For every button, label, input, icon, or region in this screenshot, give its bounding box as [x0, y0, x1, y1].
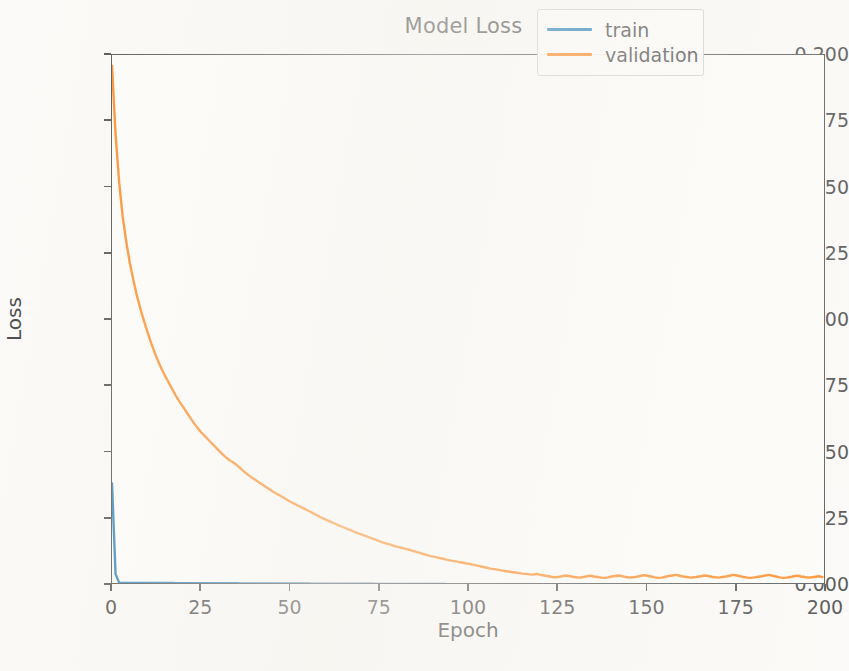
x-tick-label: 50: [250, 596, 330, 618]
x-tick-label: 25: [160, 596, 240, 618]
x-tick-mark: [110, 584, 112, 591]
page-title: Model Loss: [0, 14, 849, 38]
series-line-train: [112, 484, 805, 585]
x-tick-mark: [467, 584, 469, 591]
x-tick-mark: [378, 584, 380, 591]
x-tick-label: 150: [607, 596, 687, 618]
x-tick-mark: [289, 584, 291, 591]
x-axis-label: Epoch: [111, 618, 825, 642]
y-tick-mark: [104, 252, 111, 254]
y-tick-mark: [104, 318, 111, 320]
model-loss-figure: Model Loss Loss Epoch 0.0000.0250.0500.0…: [0, 0, 849, 671]
legend-swatch-train: [547, 28, 592, 31]
x-tick-label: 125: [517, 596, 597, 618]
legend-label-validation: validation: [605, 44, 699, 66]
x-tick-mark: [735, 584, 737, 591]
legend-item-validation[interactable]: validation: [547, 42, 694, 67]
legend-item-train[interactable]: train: [547, 17, 694, 42]
x-tick-mark: [556, 584, 558, 591]
y-tick-mark: [104, 451, 111, 453]
plot-series-canvas: [112, 55, 825, 584]
x-tick-mark: [199, 584, 201, 591]
y-tick-mark: [104, 186, 111, 188]
x-tick-label: 100: [428, 596, 508, 618]
y-tick-mark: [104, 384, 111, 386]
y-tick-mark: [104, 119, 111, 121]
x-tick-label: 175: [696, 596, 776, 618]
y-tick-mark: [104, 53, 111, 55]
y-axis-label: Loss: [2, 297, 26, 341]
legend-label-train: train: [605, 19, 649, 41]
caption-fragment: [0, 655, 849, 671]
chart-legend: train validation: [537, 9, 704, 76]
x-tick-mark: [646, 584, 648, 591]
x-tick-label: 200: [785, 596, 849, 618]
x-tick-label: 75: [339, 596, 419, 618]
series-line-validation: [112, 66, 822, 578]
legend-swatch-validation: [547, 53, 592, 56]
chart-title-text: Model Loss: [405, 14, 523, 38]
plot-area: [111, 54, 825, 584]
x-tick-label: 0: [71, 596, 151, 618]
x-tick-mark: [824, 584, 826, 591]
y-tick-mark: [104, 517, 111, 519]
